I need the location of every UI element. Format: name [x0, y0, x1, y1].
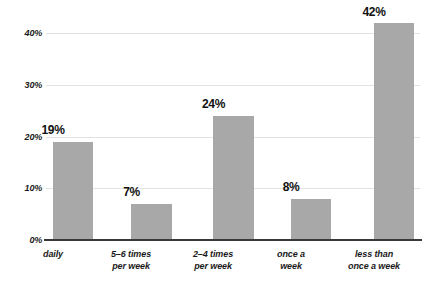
y-axis-tick-30: 30%	[25, 81, 42, 90]
category-label-once-a-week: once a week	[261, 248, 321, 272]
category-label-2-4-times-per-week: 2–4 times per week	[178, 248, 248, 272]
y-axis-tick-labels: 40% 30% 20% 10% 0%	[0, 0, 42, 285]
category-label-5-6-times-per-week-line-1: 5–6 times	[96, 248, 166, 260]
category-label-5-6-times-per-week: 5–6 times per week	[96, 248, 166, 272]
bar-value-2-4-times-per-week: 24%	[193, 98, 234, 110]
category-label-less-than-once-a-week-line-1: less than	[339, 248, 409, 260]
category-label-less-than-once-a-week-line-2: once a week	[339, 260, 409, 272]
bar-less-than-once-a-week[interactable]	[374, 23, 414, 240]
x-axis-line	[44, 239, 422, 241]
category-label-once-a-week-line-2: week	[261, 260, 321, 272]
category-label-daily-line-1: daily	[23, 248, 83, 260]
category-label-once-a-week-line-1: once a	[261, 248, 321, 260]
bar-value-once-a-week: 8%	[271, 181, 311, 193]
category-label-5-6-times-per-week-line-2: per week	[96, 260, 166, 272]
category-label-daily: daily	[23, 248, 83, 260]
y-axis-tick-40: 40%	[25, 29, 42, 38]
bar-chart: 40% 30% 20% 10% 0% 19% 7% 24% 8% 42% dai…	[0, 0, 439, 285]
bar-once-a-week[interactable]	[291, 199, 331, 240]
bar-5-6-times-per-week[interactable]	[131, 204, 172, 240]
y-axis-tick-10: 10%	[25, 184, 42, 193]
plot-area	[46, 0, 420, 240]
category-label-2-4-times-per-week-line-1: 2–4 times	[178, 248, 248, 260]
bar-value-daily: 19%	[33, 124, 73, 136]
category-label-2-4-times-per-week-line-2: per week	[178, 260, 248, 272]
category-label-less-than-once-a-week: less than once a week	[339, 248, 409, 272]
gridline-40	[46, 33, 420, 34]
bar-daily[interactable]	[53, 142, 93, 240]
y-axis-tick-0: 0%	[29, 236, 42, 245]
bar-value-5-6-times-per-week: 7%	[111, 186, 152, 198]
bar-2-4-times-per-week[interactable]	[213, 116, 254, 240]
bar-value-less-than-once-a-week: 42%	[354, 6, 394, 18]
gridline-30	[46, 85, 420, 86]
